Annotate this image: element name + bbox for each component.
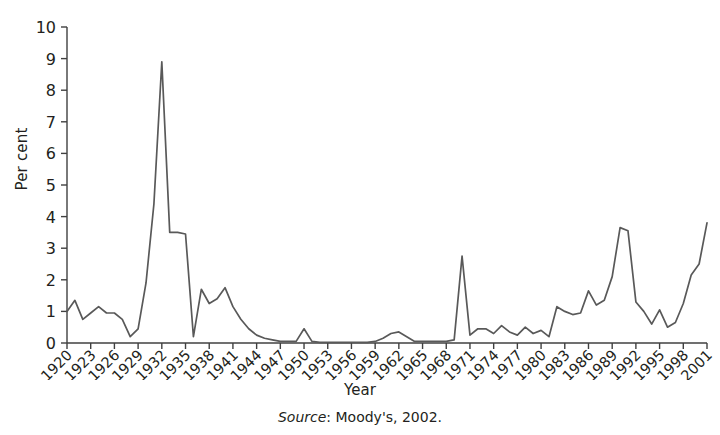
series-line — [67, 62, 707, 343]
data-series-default-rate — [67, 62, 707, 343]
line-chart-plot: 012345678910 192019231926192919321935193… — [0, 0, 720, 380]
y-tick-label: 9 — [46, 50, 56, 69]
y-tick-label: 10 — [36, 18, 56, 37]
y-axis-title: Per cent — [13, 99, 31, 219]
x-axis: 1920192319261929193219351938194119441947… — [38, 343, 715, 380]
x-axis-title: Year — [0, 381, 720, 399]
y-tick-label: 6 — [46, 144, 56, 163]
source-note: Source: Moody's, 2002. — [0, 409, 720, 425]
source-text: : Moody's, 2002. — [326, 409, 442, 425]
y-tick-label: 1 — [46, 302, 56, 321]
y-tick-label: 5 — [46, 176, 56, 195]
y-tick-label: 4 — [46, 208, 56, 227]
y-tick-label: 7 — [46, 113, 56, 132]
y-tick-label: 3 — [46, 239, 56, 258]
chart-figure: Per cent 012345678910 192019231926192919… — [0, 0, 720, 435]
source-label: Source — [278, 409, 326, 425]
y-tick-label: 2 — [46, 271, 56, 290]
y-tick-label: 8 — [46, 81, 56, 100]
y-axis: 012345678910 — [36, 18, 67, 353]
y-tick-label: 0 — [46, 334, 56, 353]
